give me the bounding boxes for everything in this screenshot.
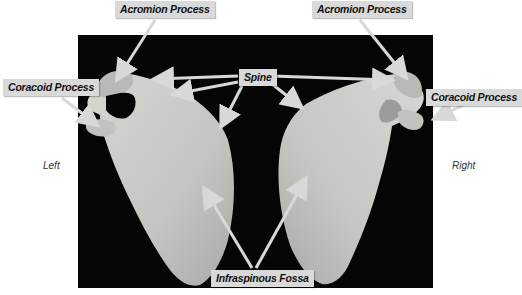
left-scapula: [86, 71, 234, 286]
side-label-left: Left: [43, 160, 60, 171]
label-coracoid-left: Coracoid Process: [3, 79, 99, 96]
label-spine: Spine: [239, 69, 277, 86]
label-acromion-right: Acromion Process: [312, 1, 412, 18]
label-coracoid-right: Coracoid Process: [426, 89, 522, 106]
side-label-right: Right: [452, 160, 475, 171]
label-acromion-left: Acromion Process: [115, 1, 215, 18]
label-infraspinous-fossa: Infraspinous Fossa: [211, 270, 314, 287]
right-scapula: [278, 72, 423, 285]
